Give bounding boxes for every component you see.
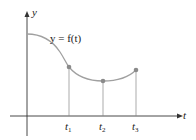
- function-label: y = f(t): [50, 32, 82, 45]
- function-diagram: y t y = f(t) t1 t2 t3: [0, 0, 196, 140]
- point-t3: [134, 68, 139, 73]
- tick-label-t2: t2: [99, 120, 106, 134]
- y-axis-arrow-icon: [25, 11, 30, 17]
- point-t1: [67, 65, 72, 70]
- tick-label-t1: t1: [65, 120, 72, 134]
- function-curve: [27, 34, 136, 81]
- point-t2: [101, 79, 106, 84]
- y-axis-label: y: [31, 6, 37, 18]
- tick-label-t3: t3: [132, 120, 139, 134]
- t-axis-label: t: [183, 109, 187, 121]
